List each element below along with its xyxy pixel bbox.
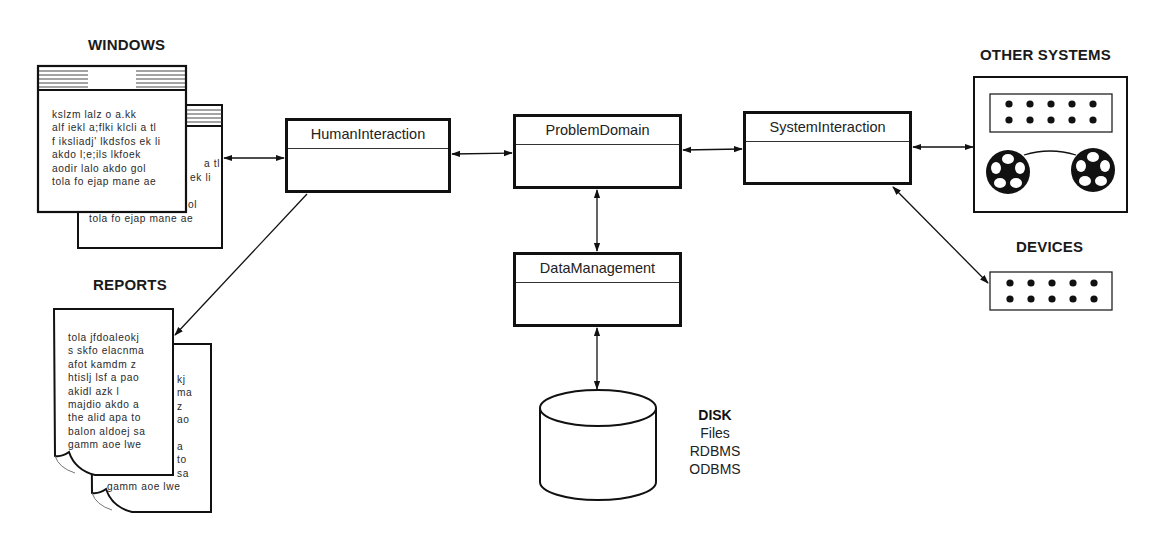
window-text-line: akdo l;e;ils lkfoek <box>52 148 161 161</box>
class-human-interaction[interactable]: HumanInteraction <box>285 118 451 193</box>
report-text-line: s skfo elacnma <box>68 344 146 357</box>
class-name: ProblemDomain <box>516 117 679 145</box>
report-back-text-peek: kjmazao atosa <box>177 373 192 480</box>
class-data-management[interactable]: DataManagement <box>513 252 682 327</box>
report-text-line: z <box>177 400 192 413</box>
report-text-line: htislj lsf a pao <box>68 371 146 384</box>
disk-item-odbms: ODBMS <box>680 460 750 478</box>
class-system-interaction[interactable]: SystemInteraction <box>743 111 912 185</box>
other-systems-heading: OTHER SYSTEMS <box>980 46 1111 63</box>
report-text-line: afot kamdm z <box>68 358 146 371</box>
class-name: DataManagement <box>516 255 679 283</box>
tape-reel-right-icon <box>1071 148 1115 192</box>
indicator-dot <box>1068 116 1075 123</box>
indicator-dot <box>1026 100 1033 107</box>
disk-label: DISK Files RDBMS ODBMS <box>680 406 750 478</box>
report-text-line: to <box>177 453 192 466</box>
indicator-dot <box>1048 279 1055 286</box>
indicator-dot <box>1090 279 1097 286</box>
report-text-line: tola jfdoaleokj <box>68 331 146 344</box>
window-front-text: kslzm lalz o a.kkalf iekl a;flki klcli a… <box>52 108 161 188</box>
window-back-text-3: ol <box>188 198 197 211</box>
indicator-dot <box>1068 100 1075 107</box>
class-problem-domain[interactable]: ProblemDomain <box>513 114 682 189</box>
indicator-dot <box>1069 279 1076 286</box>
report-front-text: tola jfdoaleokjs skfo elacnmaafot kamdm … <box>68 331 146 452</box>
indicator-dot <box>1069 295 1076 302</box>
disk-item-rdbms: RDBMS <box>680 442 750 460</box>
other-systems-device <box>974 77 1127 212</box>
indicator-dot <box>1047 116 1054 123</box>
disk-item-files: Files <box>680 424 750 442</box>
window-text-line: alf iekl a;flki klcli a tl <box>52 121 161 134</box>
report-text-line <box>177 427 192 440</box>
indicator-dot <box>1006 279 1013 286</box>
report-back-text-last: gamm aoe lwe <box>107 480 180 493</box>
report-text-line: majdio akdo a <box>68 398 146 411</box>
window-back-text-2: ek li <box>190 171 211 184</box>
tape-reel-left-icon <box>986 150 1030 194</box>
report-text-line: akidl azk l <box>68 385 146 398</box>
indicator-dot <box>1005 100 1012 107</box>
window-back-text-1: a tl <box>204 157 220 170</box>
class-name: SystemInteraction <box>746 114 909 142</box>
indicator-dot <box>1026 116 1033 123</box>
window-text-line: aodir lalo akdo gol <box>52 162 161 175</box>
indicator-dot <box>1005 116 1012 123</box>
indicator-dot <box>1089 100 1096 107</box>
devices-panel <box>990 272 1112 310</box>
indicator-dot <box>1047 100 1054 107</box>
window-text-line: kslzm lalz o a.kk <box>52 108 161 121</box>
indicator-dot <box>1027 295 1034 302</box>
indicator-dot <box>1048 295 1055 302</box>
indicator-dot <box>1089 116 1096 123</box>
report-text-line: gamm aoe lwe <box>68 438 146 451</box>
disk-cylinder-icon <box>540 390 656 500</box>
reports-heading: REPORTS <box>93 276 167 293</box>
disk-title: DISK <box>680 406 750 424</box>
window-text-line: tola fo ejap mane ae <box>52 175 161 188</box>
arrow-human-problem <box>452 153 512 154</box>
report-text-line: a <box>177 440 192 453</box>
indicator-dot <box>1006 295 1013 302</box>
window-text-line: f iksliadj' lkdsfos ek li <box>52 135 161 148</box>
arrow-problem-system <box>683 149 742 150</box>
indicator-dot <box>1027 279 1034 286</box>
report-text-line: sa <box>177 467 192 480</box>
report-text-line: ao <box>177 413 192 426</box>
report-text-line: the alid apa to <box>68 411 146 424</box>
report-text-line: ma <box>177 386 192 399</box>
class-name: HumanInteraction <box>288 121 448 149</box>
devices-heading: DEVICES <box>1016 238 1083 255</box>
window-back-text-last: tola fo ejap mane ae <box>89 212 193 225</box>
windows-heading: WINDOWS <box>88 36 165 53</box>
indicator-dot <box>1090 295 1097 302</box>
report-text-line: kj <box>177 373 192 386</box>
report-text-line: balon aldoej sa <box>68 425 146 438</box>
